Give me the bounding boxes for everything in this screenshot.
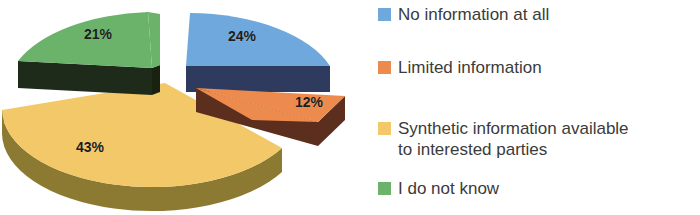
legend-swatch-icon — [378, 122, 391, 135]
legend-swatch-icon — [378, 61, 391, 74]
legend-label: No information at all — [398, 4, 549, 25]
legend-label: Synthetic information available to inter… — [398, 118, 629, 160]
pie-slice-blue-top — [186, 13, 330, 66]
legend: No information at all Limited informatio… — [378, 0, 700, 215]
pie-slice-i-do-not-know[interactable] — [18, 12, 160, 95]
pie-label-i-do-not-know: 21% — [84, 26, 112, 42]
legend-swatch-icon — [378, 8, 391, 21]
legend-item-i-do-not-know[interactable]: I do not know — [378, 178, 499, 199]
pie-slice-no-information[interactable] — [186, 13, 330, 92]
pie-chart: 21% 24% 12% 43% No information at all Li… — [0, 0, 700, 215]
pie-label-synthetic-information: 43% — [76, 139, 104, 155]
pie-slice-green-wall-right — [152, 65, 160, 95]
pie-label-limited-information: 12% — [295, 94, 323, 110]
legend-label: I do not know — [398, 178, 499, 199]
legend-item-no-information[interactable]: No information at all — [378, 4, 549, 25]
legend-item-limited-information[interactable]: Limited information — [378, 57, 542, 78]
pie-label-no-information: 24% — [228, 28, 256, 44]
pie-slice-blue-wall — [186, 66, 330, 92]
pie-graphic: 21% 24% 12% 43% — [0, 0, 370, 215]
legend-label: Limited information — [398, 57, 542, 78]
legend-swatch-icon — [378, 182, 391, 195]
legend-item-synthetic-information[interactable]: Synthetic information available to inter… — [378, 118, 629, 160]
